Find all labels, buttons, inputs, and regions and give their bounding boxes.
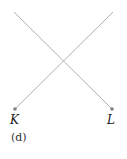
diagram-canvas: K L (d) — [0, 0, 127, 159]
point-K — [13, 107, 17, 111]
label-K: K — [9, 113, 20, 127]
line-to-K — [15, 12, 113, 109]
line-to-L — [14, 12, 112, 109]
caption: (d) — [11, 131, 27, 144]
point-L — [110, 107, 114, 111]
label-L: L — [106, 113, 115, 127]
